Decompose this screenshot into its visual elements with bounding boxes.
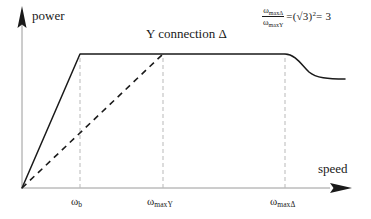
curve-delta-connection xyxy=(22,54,163,188)
tick-label-omega-maxdelta: ωmaxΔ xyxy=(270,196,295,209)
chart-figure: power speed Y connection Δ ωb ωmaxY ωmax… xyxy=(0,0,371,219)
chart-title: Y connection Δ xyxy=(146,27,227,40)
formula-fraction: ωmaxΔ ωmaxY xyxy=(262,6,284,28)
denominator-subscript: maxY xyxy=(269,22,284,28)
curve-y-connection xyxy=(22,54,345,188)
tick-label-omega-maxy: ωmaxY xyxy=(147,196,173,209)
tick-omega-subscript: maxY xyxy=(154,200,173,209)
tick-omega-subscript: maxΔ xyxy=(277,200,295,209)
numerator-subscript: maxΔ xyxy=(269,10,283,16)
formula-numerator: ωmaxΔ xyxy=(262,6,284,16)
tick-label-omega-b: ωb xyxy=(71,196,82,209)
speed-ratio-formula: ωmaxΔ ωmaxY =(√3)2= 3 xyxy=(262,6,331,28)
formula-radical: √3 xyxy=(297,10,309,22)
formula-right-side: =(√3)2= 3 xyxy=(286,11,331,22)
formula-denominator: ωmaxY xyxy=(262,18,284,28)
x-axis-label: speed xyxy=(318,162,348,175)
tick-omega-subscript: b xyxy=(78,200,82,209)
formula-result: = 3 xyxy=(316,10,331,22)
x-axis-arrowhead xyxy=(330,183,352,193)
y-axis-label: power xyxy=(32,9,65,22)
